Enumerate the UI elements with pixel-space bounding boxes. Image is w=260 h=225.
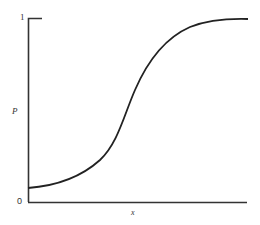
y-tick-label-1: 1 bbox=[20, 12, 25, 22]
y-tick-label-0: 0 bbox=[17, 196, 22, 206]
y-axis bbox=[29, 19, 43, 203]
x-axis-label: x bbox=[131, 208, 135, 217]
y-axis-label: P bbox=[12, 106, 18, 116]
logistic-chart: 1 0 P x bbox=[0, 0, 260, 225]
chart-canvas bbox=[0, 0, 260, 225]
sigmoid-curve bbox=[28, 19, 248, 188]
